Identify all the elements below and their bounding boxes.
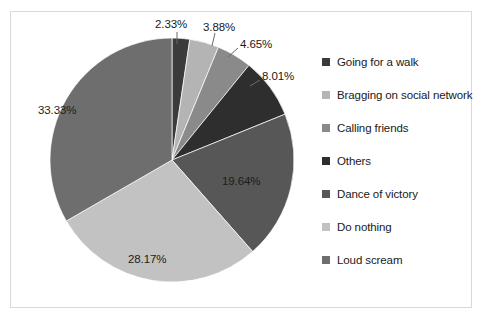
data-label-outside-3: 4.65% xyxy=(240,38,272,50)
leader-line-slice-2 xyxy=(212,33,215,46)
legend-swatch-icon xyxy=(322,124,330,132)
legend-swatch-icon xyxy=(322,91,330,99)
legend-item-bragging-on-social-network[interactable]: Bragging on social network xyxy=(322,78,472,111)
data-label-inside-3: 33.33% xyxy=(38,104,76,116)
legend-item-calling-friends[interactable]: Calling friends xyxy=(322,111,472,144)
legend-swatch-icon xyxy=(322,256,330,264)
legend-item-label: Dance of victory xyxy=(337,188,418,200)
legend-item-label: Do nothing xyxy=(337,221,392,233)
legend-item-loud-scream[interactable]: Loud scream xyxy=(322,243,472,276)
legend-item-label: Loud scream xyxy=(337,254,402,266)
pie-slice-group xyxy=(50,38,294,282)
legend-item-label: Calling friends xyxy=(337,122,408,134)
legend-swatch-icon xyxy=(322,190,330,198)
pie-chart: 2.33%3.88%4.65%8.01% 19.64%28.17%33.33% … xyxy=(0,0,485,325)
legend-item-going-for-a-walk[interactable]: Going for a walk xyxy=(322,45,472,78)
chart-legend: Going for a walkBragging on social netwo… xyxy=(322,45,472,276)
data-label-outside-1: 2.33% xyxy=(155,18,187,30)
legend-swatch-icon xyxy=(322,157,330,165)
legend-item-others[interactable]: Others xyxy=(322,144,472,177)
data-label-outside-4: 8.01% xyxy=(262,70,294,82)
data-label-outside-2: 3.88% xyxy=(203,21,235,33)
legend-item-label: Others xyxy=(337,155,371,167)
data-label-inside-2: 28.17% xyxy=(128,253,166,265)
legend-swatch-icon xyxy=(322,58,330,66)
legend-item-dance-of-victory[interactable]: Dance of victory xyxy=(322,177,472,210)
legend-item-do-nothing[interactable]: Do nothing xyxy=(322,210,472,243)
legend-item-label: Bragging on social network xyxy=(337,89,472,101)
legend-item-label: Going for a walk xyxy=(337,56,419,68)
data-label-inside-1: 19.64% xyxy=(222,175,260,187)
legend-swatch-icon xyxy=(322,223,330,231)
